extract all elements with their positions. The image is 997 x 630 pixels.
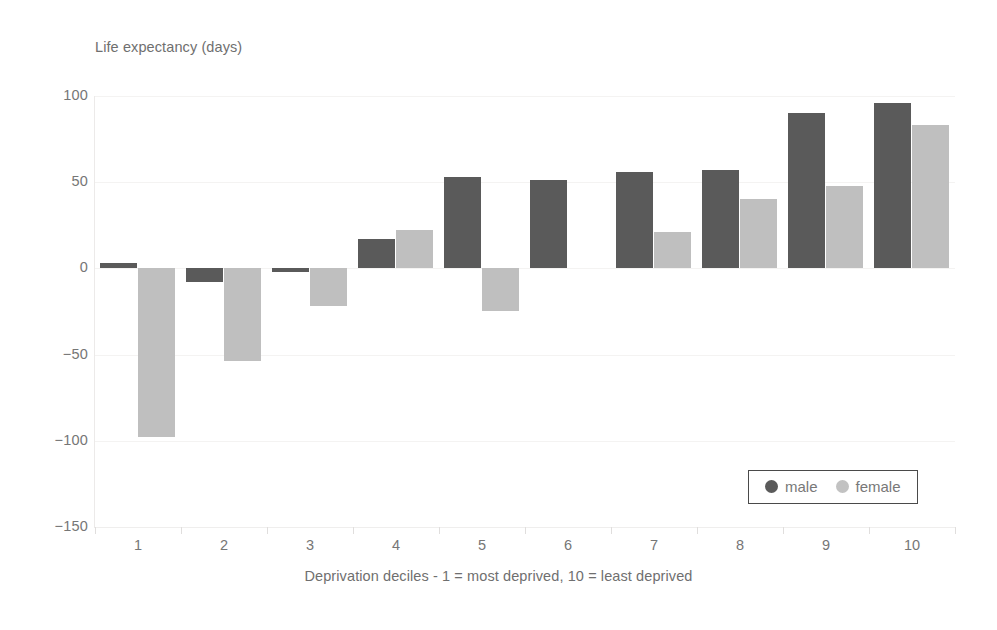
x-axis-tick-label: 2 bbox=[181, 537, 267, 553]
x-axis-tick-label: 8 bbox=[697, 537, 783, 553]
plot-area bbox=[95, 96, 955, 527]
legend-item-female[interactable]: female bbox=[836, 478, 901, 495]
bar-male-decile-1[interactable] bbox=[100, 263, 137, 268]
y-axis-tick-label: −150 bbox=[42, 518, 88, 534]
x-axis-tick-label: 6 bbox=[525, 537, 611, 553]
legend-label-female: female bbox=[856, 478, 901, 495]
y-axis-tick-label: −100 bbox=[42, 432, 88, 448]
bar-female-decile-7[interactable] bbox=[654, 232, 691, 268]
bar-male-decile-6[interactable] bbox=[530, 180, 567, 268]
legend-item-male[interactable]: male bbox=[765, 478, 818, 495]
y-axis-tick-label: 100 bbox=[42, 87, 88, 103]
legend-label-male: male bbox=[785, 478, 818, 495]
gridline bbox=[95, 96, 955, 97]
chart-legend[interactable]: male female bbox=[748, 470, 918, 504]
bar-female-decile-5[interactable] bbox=[482, 268, 519, 311]
bar-female-decile-9[interactable] bbox=[826, 186, 863, 269]
bar-female-decile-2[interactable] bbox=[224, 268, 261, 361]
bar-female-decile-4[interactable] bbox=[396, 230, 433, 268]
x-axis-tick-mark bbox=[955, 527, 956, 534]
x-axis-tick-mark bbox=[95, 527, 96, 534]
bar-female-decile-10[interactable] bbox=[912, 125, 949, 268]
x-axis-tick-mark bbox=[353, 527, 354, 534]
x-axis-tick-label: 9 bbox=[783, 537, 869, 553]
bar-female-decile-1[interactable] bbox=[138, 268, 175, 437]
bar-male-decile-4[interactable] bbox=[358, 239, 395, 268]
x-axis-tick-mark bbox=[611, 527, 612, 534]
y-axis-tick-label: −50 bbox=[42, 346, 88, 362]
y-axis-tick-label: 50 bbox=[42, 173, 88, 189]
x-axis-tick-mark bbox=[869, 527, 870, 534]
bar-female-decile-3[interactable] bbox=[310, 268, 347, 306]
x-axis-tick-label: 10 bbox=[869, 537, 955, 553]
x-axis-tick-mark bbox=[525, 527, 526, 534]
x-axis-tick-label: 7 bbox=[611, 537, 697, 553]
x-axis-title: Deprivation deciles - 1 = most deprived,… bbox=[0, 568, 997, 584]
chart-page: Life expectancy (days) 100500−50−100−150… bbox=[0, 0, 997, 630]
y-axis-tick-labels: 100500−50−100−150 bbox=[32, 0, 88, 630]
x-axis-tick-label: 1 bbox=[95, 537, 181, 553]
gridline bbox=[95, 441, 955, 442]
x-axis-tick-mark bbox=[439, 527, 440, 534]
bar-male-decile-10[interactable] bbox=[874, 103, 911, 269]
bar-male-decile-8[interactable] bbox=[702, 170, 739, 268]
x-axis-tick-label: 5 bbox=[439, 537, 525, 553]
bar-male-decile-9[interactable] bbox=[788, 113, 825, 268]
x-axis-tick-mark bbox=[181, 527, 182, 534]
y-axis-tick-label: 0 bbox=[42, 259, 88, 275]
bar-female-decile-8[interactable] bbox=[740, 199, 777, 268]
x-axis-tick-mark bbox=[783, 527, 784, 534]
bar-male-decile-5[interactable] bbox=[444, 177, 481, 268]
legend-swatch-male-icon bbox=[765, 480, 778, 493]
x-axis-tick-label: 3 bbox=[267, 537, 353, 553]
x-axis-tick-label: 4 bbox=[353, 537, 439, 553]
gridline bbox=[95, 182, 955, 183]
bar-male-decile-3[interactable] bbox=[272, 268, 309, 271]
bar-male-decile-7[interactable] bbox=[616, 172, 653, 269]
y-axis-title: Life expectancy (days) bbox=[95, 39, 242, 55]
x-axis-tick-mark bbox=[697, 527, 698, 534]
bar-male-decile-2[interactable] bbox=[186, 268, 223, 282]
legend-swatch-female-icon bbox=[836, 480, 849, 493]
x-axis-tick-mark bbox=[267, 527, 268, 534]
